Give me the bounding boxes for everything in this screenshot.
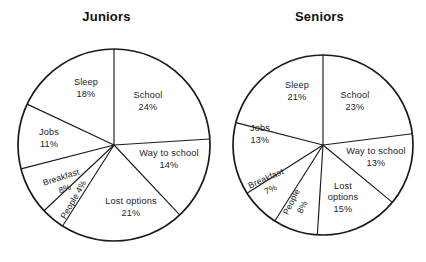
pie-slice-value: 7%	[263, 182, 279, 196]
pie-slice-label: School23%	[341, 90, 370, 112]
pie-slice-name: options	[328, 192, 359, 202]
pie-slice-value: 11%	[40, 139, 58, 149]
pie-slice-divider	[317, 145, 323, 235]
pie-slice-label: Jobs13%	[250, 123, 270, 145]
pie-slice-name: Way to school	[139, 148, 198, 158]
pie-slice-value: 24%	[139, 102, 158, 112]
pie-slice-value: 13%	[251, 135, 270, 145]
pie-slice-label: Jobs11%	[39, 127, 59, 149]
pie-slice-name: Sleep	[285, 80, 309, 90]
chart-panel-juniors: Juniors School24%Way to school14%Lost op…	[0, 0, 213, 262]
pie-slice-value: 15%	[334, 204, 353, 214]
pie-slice-label: Lostoptions15%	[328, 181, 359, 214]
pie-slice-label: Sleep18%	[74, 77, 98, 99]
pie-slice-name: Jobs	[250, 123, 270, 133]
pie-slice-label: Way to school14%	[139, 148, 198, 170]
pie-slice-name: Way to school	[346, 146, 405, 156]
pie-slice-name: Lost options	[105, 196, 157, 206]
pie-slice-divider	[236, 123, 323, 145]
chart-panel-seniors: Seniors School23%Way to school13%Lostopt…	[213, 0, 426, 262]
pie-slice-label: School24%	[134, 90, 163, 112]
pie-slice-label: Breakfast7%	[247, 166, 291, 202]
pie-slice-value: 13%	[367, 158, 386, 168]
pie-slice-value: 21%	[122, 208, 141, 218]
pie-slice-label: People8%	[281, 187, 313, 222]
pie-chart-juniors: School24%Way to school14%Lost options21%…	[0, 0, 213, 262]
pie-slice-name: School	[341, 90, 370, 100]
pie-slice-divider	[114, 139, 210, 145]
pie-slice-value: 14%	[160, 160, 179, 170]
pie-slice-name: Lost	[334, 181, 352, 191]
pie-slice-name: Jobs	[39, 127, 59, 137]
pie-slice-label: Lost options21%	[105, 196, 157, 218]
pie-slice-label: Sleep21%	[285, 80, 309, 102]
pie-slice-label: Way to school13%	[346, 146, 405, 168]
pie-slice-name: Sleep	[74, 77, 98, 87]
pie-slice-divider	[323, 134, 412, 145]
pie-slice-value: 18%	[77, 89, 96, 99]
pie-slice-divider	[21, 145, 114, 169]
pie-chart-seniors: School23%Way to school13%Lostoptions15%P…	[213, 0, 426, 262]
pie-slice-name: School	[134, 90, 163, 100]
pie-slice-value: 23%	[346, 102, 365, 112]
pie-slice-value: 21%	[288, 92, 307, 102]
